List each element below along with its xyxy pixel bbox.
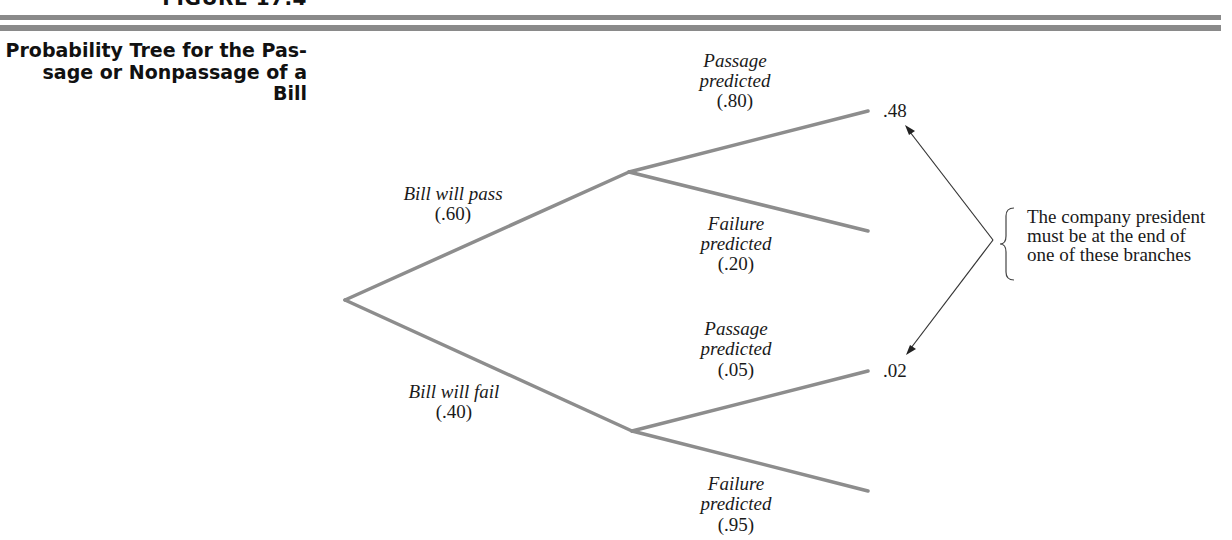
label-pass-failure-line1: Failure [707, 213, 764, 234]
outcome-pass-passage: .48 [883, 100, 907, 121]
label-pass-failure-line2: predicted [698, 233, 772, 254]
annotation-line-2: must be at the end of [1027, 225, 1186, 246]
label-bill-will-fail: Bill will fail [409, 381, 500, 402]
label-bill-will-pass: Bill will pass [403, 183, 502, 204]
branch-pass-passage-predicted [629, 111, 868, 172]
arrowhead-down-icon [906, 345, 916, 355]
outcome-fail-passage: .02 [883, 360, 907, 381]
prob-pass-failure: (.20) [718, 253, 754, 275]
prob-fail-failure: (.95) [718, 514, 754, 536]
label-fail-passage-line2: predicted [698, 338, 772, 359]
curly-brace-icon [1000, 208, 1014, 280]
label-fail-failure-line2: predicted [698, 493, 772, 514]
annotation-line-3: one of these branches [1027, 244, 1191, 265]
prob-bill-will-pass: (.60) [435, 203, 471, 225]
label-pass-passage-line2: predicted [697, 70, 771, 91]
arrow-to-02 [911, 240, 993, 348]
arrow-to-48 [910, 132, 993, 240]
branch-fail-passage-predicted [632, 371, 868, 431]
arrowhead-up-icon [905, 125, 915, 135]
branch-bill-fail [345, 300, 632, 431]
probability-tree: Bill will pass (.60) Bill will fail (.40… [0, 0, 1232, 540]
annotation-line-1: The company president [1027, 206, 1206, 227]
prob-fail-passage: (.05) [718, 359, 754, 381]
label-fail-failure-line1: Failure [707, 473, 764, 494]
prob-pass-passage: (.80) [717, 90, 753, 112]
label-pass-passage-line1: Passage [702, 50, 766, 71]
label-fail-passage-line1: Passage [703, 318, 767, 339]
prob-bill-will-fail: (.40) [436, 401, 472, 423]
